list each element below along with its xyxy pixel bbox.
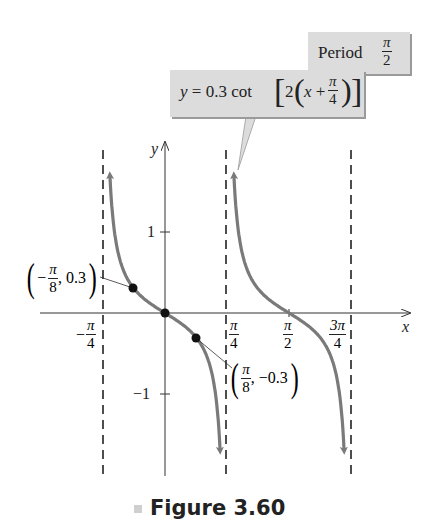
y-tick-label-neg1: −1	[133, 385, 150, 403]
y-tick-label-1: 1	[147, 223, 155, 241]
equation-text: y = 0.3 cot	[180, 82, 252, 102]
x-tick-label-pi-4: π4	[229, 318, 239, 351]
x-tick-label-3pi-4: 3π4	[329, 318, 346, 351]
equation-callout: y = 0.3 cot [ 2 ( x + π 4 ) ]	[170, 70, 364, 117]
equation-x: x +	[304, 82, 325, 102]
point-pi-8	[192, 334, 201, 343]
point-neg-pi-8	[129, 284, 138, 293]
point-label-left: ( − π8 , 0.3 )	[24, 258, 99, 298]
period-fraction: π 2	[382, 35, 392, 68]
x-tick-label-pi-2: π2	[283, 318, 293, 351]
bracket-right: ]	[351, 74, 362, 108]
y-axis-label: y	[151, 140, 158, 158]
period-word: Period	[318, 43, 362, 63]
x-axis-label: x	[402, 318, 409, 336]
point-origin	[161, 309, 170, 318]
bracket-left: [	[274, 74, 285, 108]
caption-bullet-icon	[134, 505, 142, 513]
figure-caption: Figure 3.60	[134, 496, 285, 520]
period-callout: Period π 2	[308, 32, 410, 74]
point-label-right: ( π8 , −0.3 )	[228, 358, 301, 398]
callout-pointer	[238, 116, 256, 170]
x-tick-label-neg-pi-4: − π4	[76, 318, 96, 351]
equation-fraction: π 4	[328, 74, 338, 107]
